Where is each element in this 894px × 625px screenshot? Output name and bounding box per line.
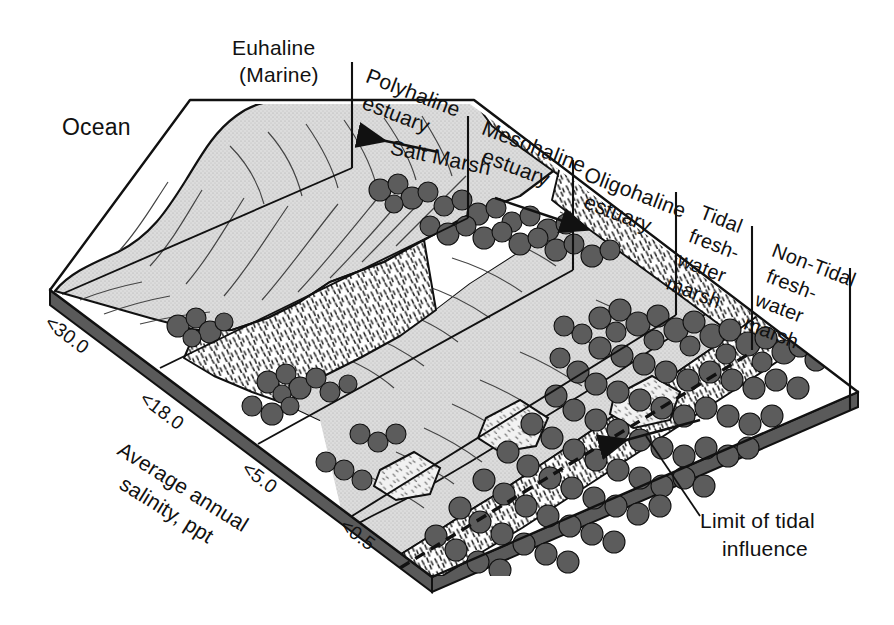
zone-label-euhaline-line1: Euhaline: [232, 36, 315, 59]
ocean-label: Ocean: [62, 114, 131, 140]
tidal-limit-label-line1: Limit of tidal: [700, 509, 815, 532]
estuary-block-diagram: Ocean Euhaline (Marine) Polyhaline estua…: [0, 0, 894, 625]
zone-label-euhaline-line2: (Marine): [239, 63, 319, 86]
salinity-axis-label: Average annual salinity, ppt: [99, 437, 253, 559]
zone-label-euhaline: Euhaline (Marine): [232, 36, 319, 86]
figure-canvas: Ocean Euhaline (Marine) Polyhaline estua…: [0, 0, 894, 625]
tidal-limit-label-line2: influence: [722, 537, 808, 560]
tidal-limit-label: Limit of tidal influence: [700, 509, 815, 560]
